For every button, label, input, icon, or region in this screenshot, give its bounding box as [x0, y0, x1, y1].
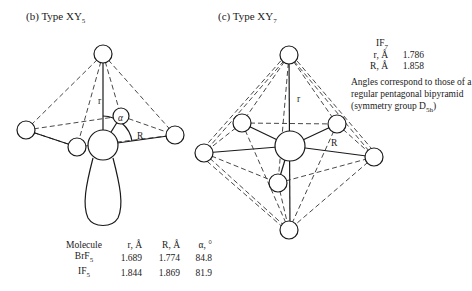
ligand-atom-apical — [94, 45, 112, 63]
central-atom — [88, 130, 118, 160]
table-row: BrF5 1.689 1.774 84.8 — [60, 251, 212, 266]
if7-param-r: r, Å1.786 — [338, 50, 428, 61]
table-row: IF5 1.844 1.869 81.9 — [60, 266, 212, 281]
ligand-atom-apical — [280, 46, 298, 64]
cell-alpha: 81.9 — [180, 266, 212, 281]
lone-pair-lobe — [85, 158, 121, 226]
ligand-atom — [17, 121, 35, 139]
xy5-parameter-table: Molecule r, Å R, Å α, ° BrF5 1.689 1.774… — [60, 240, 212, 281]
table-header-row: Molecule r, Å R, Å α, ° — [60, 240, 212, 251]
ligand-atom — [328, 115, 346, 133]
label-r: r — [297, 94, 301, 104]
header-molecule: Molecule — [60, 240, 108, 251]
header-R: R, Å — [142, 240, 180, 251]
symmetry-note: Angles correspond to those of a regular … — [351, 76, 472, 116]
cell-r: 1.844 — [108, 266, 142, 281]
cell-alpha: 84.8 — [180, 251, 212, 266]
cell-r: 1.689 — [108, 251, 142, 266]
label-R: R — [137, 131, 144, 141]
ligand-atom — [365, 148, 383, 166]
cell-molecule: IF5 — [60, 266, 108, 281]
central-atom — [275, 131, 305, 161]
label-R: R — [331, 138, 338, 148]
ligand-atom-apical — [280, 221, 298, 239]
cell-R: 1.869 — [142, 266, 180, 281]
xy5-diagram: r α R — [17, 45, 184, 226]
if7-param-R: R, Å1.858 — [338, 61, 428, 72]
cell-R: 1.774 — [142, 251, 180, 266]
header-alpha: α, ° — [180, 240, 212, 251]
ligand-atom — [166, 126, 184, 144]
cell-molecule: BrF5 — [60, 251, 108, 266]
header-r: r, Å — [108, 240, 142, 251]
ligand-atom — [269, 174, 287, 192]
label-r: r — [98, 96, 102, 106]
xy7-diagram: r R — [195, 46, 383, 239]
ligand-atom — [68, 138, 86, 156]
ligand-atom — [233, 114, 251, 132]
ligand-atom — [195, 144, 213, 162]
